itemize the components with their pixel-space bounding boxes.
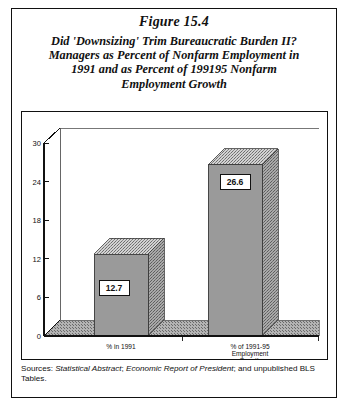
figure-title-line-1: Did 'Downsizing' Trim Bureaucratic Burde… [26, 34, 322, 48]
figure-title-line-2: Managers as Percent of Nonfarm Employmen… [26, 48, 322, 62]
x-axis-labels: % in 1991 % of 1991-95 Employment Growth [106, 343, 270, 360]
x-label-1-line-1: % in 1991 [106, 343, 136, 350]
source-prefix: Sources: [21, 364, 55, 373]
y-tick-0: 0 [37, 332, 41, 341]
figure-title-line-3: 1991 and as Percent of 199195 Nonfarm [26, 62, 322, 76]
y-tick-12: 12 [33, 255, 41, 264]
chart-area: 30 24 18 12 6 0 [21, 111, 328, 360]
y-tick-24: 24 [33, 178, 41, 187]
x-label-2-line-1: % of 1991-95 [230, 343, 270, 350]
value-label-2-text: 26.6 [227, 177, 244, 187]
figure-container: Figure 15.4 Did 'Downsizing' Trim Bureau… [11, 8, 337, 398]
value-label-1-text: 12.7 [106, 283, 123, 293]
value-label-2: 26.6 [220, 174, 250, 189]
y-tick-30: 30 [33, 139, 41, 148]
x-label-2-line-3: Growth [239, 357, 261, 360]
figure-caption: Figure 15.4 Did 'Downsizing' Trim Bureau… [12, 9, 336, 91]
y-axis: 30 24 18 12 6 0 [33, 139, 49, 341]
source-publication-2: Economic Report of President [126, 364, 234, 373]
y-tick-18: 18 [33, 216, 41, 225]
bar-chart-3d: 30 24 18 12 6 0 [22, 112, 328, 360]
figure-title-line-4: Employment Growth [26, 77, 322, 91]
y-tick-6: 6 [37, 293, 41, 302]
value-label-1: 12.7 [99, 280, 129, 295]
figure-title: Did 'Downsizing' Trim Bureaucratic Burde… [12, 34, 336, 91]
figure-number: Figure 15.4 [12, 14, 336, 30]
source-publication-1: Statistical Abstract [55, 364, 121, 373]
source-note: Sources: Statistical Abstract; Economic … [21, 364, 328, 385]
